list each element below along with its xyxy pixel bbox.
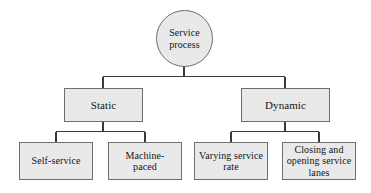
service-process-diagram: Service process Static Dynamic Self-serv… xyxy=(0,0,371,193)
node-closing-opening-service-lanes[interactable]: Closing and opening service lanes xyxy=(282,142,356,180)
node-machine-paced-label: Machine- paced xyxy=(123,150,166,172)
node-varying-service-rate-label: Varying service rate xyxy=(197,150,265,172)
node-self-service-label: Self-service xyxy=(30,155,83,166)
node-self-service[interactable]: Self-service xyxy=(19,142,93,180)
node-static[interactable]: Static xyxy=(64,88,143,122)
node-dynamic[interactable]: Dynamic xyxy=(241,88,330,122)
node-machine-paced[interactable]: Machine- paced xyxy=(108,142,182,180)
node-service-process-label: Service process xyxy=(167,27,202,49)
node-static-label: Static xyxy=(89,99,119,111)
node-dynamic-label: Dynamic xyxy=(263,99,308,111)
node-service-process[interactable]: Service process xyxy=(156,10,213,67)
node-varying-service-rate[interactable]: Varying service rate xyxy=(194,142,268,180)
node-closing-opening-service-lanes-label: Closing and opening service lanes xyxy=(285,144,354,178)
